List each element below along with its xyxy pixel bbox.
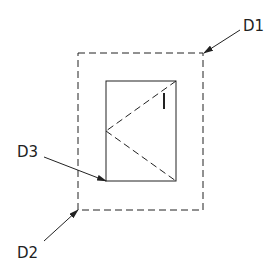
- inner-panel-frame: [106, 81, 176, 181]
- leader-d3: [44, 157, 106, 181]
- label-d3: D3: [17, 143, 38, 161]
- label-d1: D1: [243, 17, 264, 35]
- leader-d1: [204, 30, 240, 53]
- label-d2: D2: [17, 244, 38, 262]
- opening-direction-lines: [106, 81, 176, 181]
- elevation-diagram: D1 D3 D2: [0, 0, 273, 272]
- leader-d2: [44, 210, 78, 241]
- outer-dashed-frame: [78, 53, 203, 210]
